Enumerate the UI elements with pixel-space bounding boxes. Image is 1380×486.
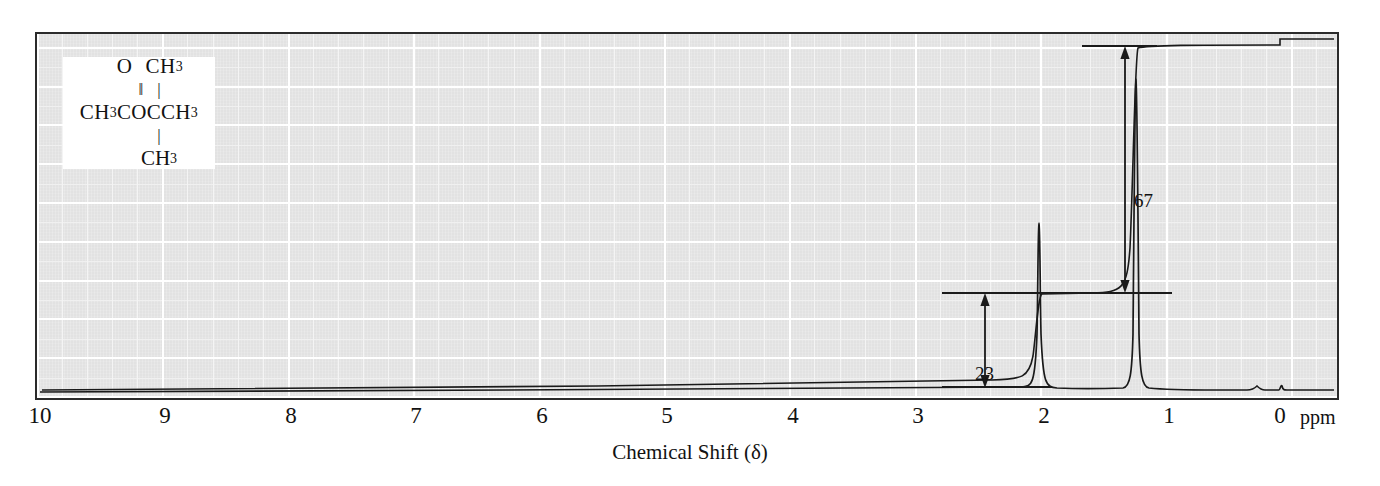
x-axis-unit-label: ppm [1300,406,1336,429]
chain-mid-label: COC [117,102,161,123]
structure-row-bonds-lower: | [80,125,198,148]
single-bond-upper-icon: | [157,81,161,98]
chain-left-sub: 3 [110,106,117,120]
molecular-structure: O CH3 ‖ | CH3COCCH3 | CH3 [80,56,198,171]
x-tick-7: 7 [410,403,422,429]
x-tick-9: 9 [159,403,171,429]
integral-value-23: 23 [975,363,994,385]
top-methyl-label: CH [145,56,175,77]
x-axis: 10 9 8 7 6 5 4 3 2 1 0 ppm [0,400,1380,440]
nmr-spectrum-plot: O CH3 ‖ | CH3COCCH3 | CH3 67 23 [35,32,1339,400]
chain-right-label: CH [161,102,191,123]
single-bond-lower-icon: | [157,127,160,144]
spectrum-svg [37,34,1337,398]
spectrum-traces [37,34,1337,398]
x-tick-8: 8 [285,403,297,429]
bottom-methyl-sub: 3 [170,152,177,166]
x-tick-1: 1 [1163,403,1175,429]
chain-right-sub: 3 [191,106,198,120]
x-tick-4: 4 [787,403,799,429]
top-methyl-sub: 3 [176,60,184,74]
x-tick-5: 5 [661,403,673,429]
structure-row-main-chain: CH3COCCH3 [80,102,198,125]
structure-row-bonds-upper: ‖ | [80,79,198,102]
x-tick-0: 0 [1274,403,1286,429]
structure-inset: O CH3 ‖ | CH3COCCH3 | CH3 [63,57,215,169]
x-tick-10: 10 [29,403,52,429]
x-tick-3: 3 [912,403,924,429]
integral-value-67: 67 [1134,190,1153,212]
x-tick-6: 6 [536,403,548,429]
structure-row-bottom: CH3 [80,148,198,171]
double-bond-icon: ‖ [138,81,144,98]
carbonyl-oxygen-label: O [117,56,133,77]
integral-trace [42,39,1334,390]
spectrum-trace [40,80,1334,392]
x-tick-2: 2 [1038,403,1050,429]
x-axis-title: Chemical Shift (δ) [0,440,1380,465]
bottom-methyl-label: CH [141,148,170,169]
structure-row-top: O CH3 [80,56,198,79]
chain-left-label: CH [80,102,110,123]
integral-arrow-67 [1120,46,1129,293]
